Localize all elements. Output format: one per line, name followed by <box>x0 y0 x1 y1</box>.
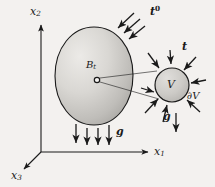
traction-volume-arrow <box>141 88 154 92</box>
traction-volume-arrow <box>145 99 158 113</box>
axis-x2-label: x2 <box>30 6 41 18</box>
volume-boundary-label: ∂V <box>187 91 199 101</box>
traction-boundary-label: t0 <box>150 5 160 17</box>
traction-internal-label: t <box>182 41 187 52</box>
traction-volume-arrow <box>148 53 159 68</box>
body-label: Bt <box>86 60 96 71</box>
body-region-group <box>55 27 133 125</box>
axis-x3-label: x3 <box>11 170 22 182</box>
traction-volume-arrow <box>191 80 206 83</box>
figure-continuum-body-diagram: x2 x1 x3 Bt t0 t V ∂V g g <box>0 0 215 187</box>
traction-boundary-arrows <box>118 13 145 39</box>
gravity-body-arrows <box>76 124 109 145</box>
traction-volume-arrow <box>170 50 171 64</box>
material-point-marker <box>94 77 99 82</box>
gravity-volume-label: g <box>163 111 171 122</box>
body-region-outline <box>55 27 133 125</box>
diagram-canvas <box>0 0 215 187</box>
axis-x1-label: x1 <box>154 146 165 158</box>
gravity-body-label: g <box>116 126 124 137</box>
volume-label: V <box>167 79 175 90</box>
traction-volume-arrow <box>187 100 200 112</box>
traction-volume-arrow <box>184 57 196 70</box>
axis-x3-line <box>24 152 41 169</box>
traction-boundary-arrow <box>129 26 145 39</box>
traction-boundary-arrow <box>124 19 140 33</box>
